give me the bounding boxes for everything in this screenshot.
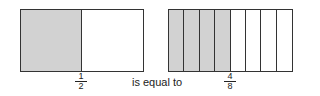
unshaded-eighth: [231, 10, 246, 71]
shaded-eighth: [169, 10, 184, 71]
equality-text: is equal to: [132, 76, 182, 88]
unshaded-eighth: [261, 10, 276, 71]
shaded-eighth: [184, 10, 199, 71]
eighths-fraction-bar: [168, 9, 293, 72]
fraction-four-eighths: 4 8: [224, 72, 236, 91]
denominator: 2: [75, 82, 87, 91]
unshaded-eighth: [277, 10, 292, 71]
halves-fraction-bar: [20, 9, 144, 72]
unshaded-half: [82, 10, 143, 71]
fraction-one-half: 1 2: [75, 72, 87, 91]
denominator: 8: [224, 82, 236, 91]
shaded-half: [21, 10, 82, 71]
shaded-eighth: [215, 10, 230, 71]
unshaded-eighth: [246, 10, 261, 71]
shaded-eighth: [200, 10, 215, 71]
